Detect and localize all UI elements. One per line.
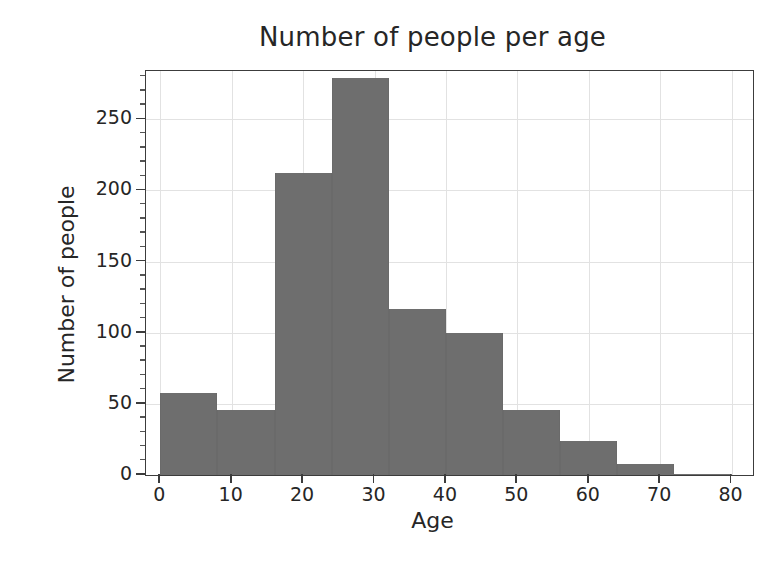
- y-tick-mark-50: [136, 402, 145, 404]
- x-tick-label-10: 10: [201, 483, 261, 507]
- y-tick-mark-200: [136, 189, 145, 191]
- y-tick-minor-280: [140, 75, 145, 76]
- figure-canvas: Number of people per age 050100150200250…: [0, 0, 782, 575]
- bar-64-72: [617, 464, 674, 475]
- y-tick-label-0: 0: [58, 462, 132, 484]
- x-tick-label-40: 40: [415, 483, 475, 507]
- y-tick-minor-20: [140, 445, 145, 446]
- x-tick-label-text: 40: [415, 483, 475, 505]
- x-tick-mark-0: [158, 474, 160, 483]
- bar-24-32: [332, 78, 389, 475]
- histogram-bars: [146, 71, 753, 475]
- y-tick-label-text: 0: [62, 462, 132, 484]
- x-tick-label-text: 80: [701, 483, 761, 505]
- x-tick-label-50: 50: [486, 483, 546, 507]
- bar-40-48: [446, 333, 503, 475]
- y-tick-label-250: 250: [58, 106, 132, 128]
- y-tick-minor-80: [140, 359, 145, 360]
- x-tick-label-30: 30: [344, 483, 404, 507]
- y-tick-label-text: 250: [62, 106, 132, 128]
- x-tick-label-60: 60: [558, 483, 618, 507]
- y-tick-minor-180: [140, 217, 145, 218]
- x-tick-mark-30: [373, 474, 375, 483]
- y-tick-minor-110: [140, 317, 145, 318]
- y-tick-mark-150: [136, 260, 145, 262]
- y-tick-minor-270: [140, 89, 145, 90]
- x-tick-label-text: 10: [201, 483, 261, 505]
- bar-48-56: [503, 410, 560, 475]
- bar-16-24: [275, 173, 332, 475]
- y-tick-minor-170: [140, 231, 145, 232]
- x-tick-label-text: 20: [272, 483, 332, 505]
- y-tick-mark-100: [136, 331, 145, 333]
- bar-56-64: [560, 441, 617, 475]
- y-tick-minor-70: [140, 374, 145, 375]
- y-tick-minor-10: [140, 459, 145, 460]
- y-tick-minor-190: [140, 203, 145, 204]
- x-tick-label-80: 80: [701, 483, 761, 507]
- y-tick-minor-240: [140, 132, 145, 133]
- x-tick-label-text: 0: [129, 483, 189, 505]
- x-tick-label-text: 50: [486, 483, 546, 505]
- x-tick-mark-40: [444, 474, 446, 483]
- y-tick-minor-210: [140, 175, 145, 176]
- bar-0-8: [160, 393, 217, 476]
- bar-72-80: [674, 474, 731, 475]
- y-tick-mark-250: [136, 118, 145, 120]
- y-tick-minor-260: [140, 103, 145, 104]
- plot-area: [145, 70, 754, 476]
- y-tick-minor-120: [140, 303, 145, 304]
- y-tick-minor-30: [140, 431, 145, 432]
- y-tick-mark-0: [136, 473, 145, 475]
- x-tick-label-text: 70: [629, 483, 689, 505]
- x-tick-mark-80: [730, 474, 732, 483]
- x-tick-mark-50: [515, 474, 517, 483]
- y-tick-minor-140: [140, 274, 145, 275]
- y-tick-minor-160: [140, 246, 145, 247]
- y-tick-minor-220: [140, 160, 145, 161]
- page-title: Number of people per age: [110, 22, 755, 52]
- y-tick-minor-230: [140, 146, 145, 147]
- x-tick-label-text: 30: [344, 483, 404, 505]
- x-tick-mark-10: [230, 474, 232, 483]
- x-axis-label: Age: [110, 508, 755, 533]
- x-tick-label-70: 70: [629, 483, 689, 507]
- x-tick-label-text: 60: [558, 483, 618, 505]
- y-tick-minor-40: [140, 416, 145, 417]
- y-tick-minor-60: [140, 388, 145, 389]
- bar-8-16: [217, 410, 274, 475]
- x-tick-mark-70: [658, 474, 660, 483]
- x-tick-label-20: 20: [272, 483, 332, 507]
- x-tick-mark-20: [301, 474, 303, 483]
- x-tick-label-0: 0: [129, 483, 189, 507]
- bar-32-40: [389, 309, 446, 475]
- y-axis-label: Number of people: [54, 135, 79, 435]
- y-tick-minor-130: [140, 288, 145, 289]
- y-tick-minor-90: [140, 345, 145, 346]
- x-tick-mark-60: [587, 474, 589, 483]
